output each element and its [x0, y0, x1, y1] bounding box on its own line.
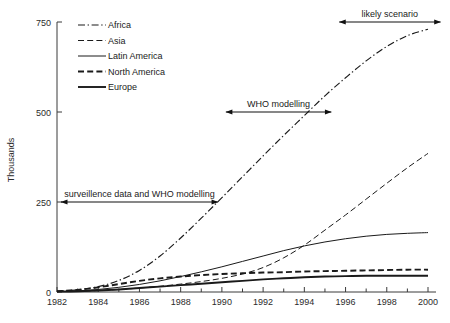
x-tick-label: 1990 [212, 297, 232, 307]
x-tick-label: 1994 [294, 297, 314, 307]
x-tick-label: 1998 [377, 297, 397, 307]
legend-label-africa: Africa [108, 20, 131, 30]
chart-legend: AfricaAsiaLatin AmericaNorth AmericaEuro… [78, 20, 165, 92]
annotation-surveillence-data-and-who-modelling-label: surveillence data and WHO modelling [64, 189, 215, 199]
x-tick-label: 1992 [253, 297, 273, 307]
axes: 0250500750198219841986198819901992199419… [36, 18, 438, 308]
legend-label-asia: Asia [108, 36, 126, 46]
x-tick-label: 1984 [88, 297, 108, 307]
chart-container: 0250500750198219841986198819901992199419… [0, 0, 450, 323]
legend-label-north-america: North America [108, 67, 165, 77]
legend-label-latin-america: Latin America [108, 51, 163, 61]
annotation-who-modelling-label: WHO modelling [247, 99, 310, 109]
x-tick-label: 1988 [171, 297, 191, 307]
x-tick-label: 2000 [418, 297, 438, 307]
x-tick-label: 1996 [336, 297, 356, 307]
y-tick-label: 0 [46, 288, 51, 298]
y-tick-label: 250 [36, 198, 51, 208]
annotation-likely-scenario-label: likely scenario [362, 9, 419, 19]
y-tick-label: 500 [36, 108, 51, 118]
y-tick-label: 750 [36, 18, 51, 28]
x-tick-label: 1982 [47, 297, 67, 307]
y-axis-title: Thousands [6, 137, 16, 182]
legend-label-europe: Europe [108, 82, 137, 92]
x-tick-label: 1986 [129, 297, 149, 307]
line-chart: 0250500750198219841986198819901992199419… [0, 0, 450, 323]
